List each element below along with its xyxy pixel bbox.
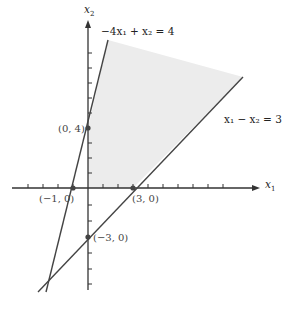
point-label-0-4: (0, 4) <box>58 123 85 134</box>
point-m1-0 <box>70 185 75 190</box>
point-label-m1-0: (−1, 0) <box>39 193 74 204</box>
y-axis-arrow-icon <box>85 20 91 28</box>
y-axis-label-sub: 2 <box>90 10 94 18</box>
x-axis-label: x1 <box>265 178 275 193</box>
x-axis-arrow-icon <box>252 185 260 191</box>
linear-program-chart <box>0 0 288 313</box>
x-axis-label-sub: 1 <box>271 185 275 193</box>
line-1-label: −4x₁ + x₂ = 4 <box>101 25 174 37</box>
point-label-3-0: (3, 0) <box>132 193 159 204</box>
y-axis-label: x2 <box>84 3 94 18</box>
point-3-0 <box>130 185 135 190</box>
point-0-m3 <box>85 234 90 239</box>
line-2-label: x₁ − x₂ = 3 <box>224 113 282 125</box>
point-label-m3-0: (−3, 0) <box>93 232 128 243</box>
point-0-4 <box>85 125 90 130</box>
feasible-region <box>88 40 243 188</box>
